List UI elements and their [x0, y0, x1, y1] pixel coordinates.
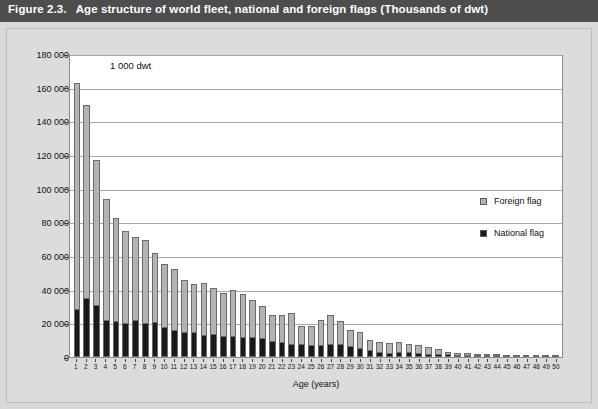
x-axis-tick: 22: [277, 359, 287, 375]
bar-segment-national-flag: [84, 298, 89, 356]
bar-segment-national-flag: [436, 354, 441, 356]
bar-slot: [121, 56, 131, 357]
y-axis-tick-mark: [64, 122, 68, 123]
bar-segment-national-flag: [475, 355, 480, 356]
x-axis-tick-mark: [370, 359, 371, 362]
bar-slot: [551, 56, 561, 357]
bar-segment-national-flag: [377, 352, 382, 356]
stacked-bar: [308, 326, 315, 357]
stacked-bar: [201, 283, 208, 357]
bar-segment-national-flag: [309, 345, 314, 356]
x-axis-tick-label: 17: [228, 363, 238, 370]
stacked-bar: [161, 264, 168, 357]
x-axis-tick-mark: [399, 359, 400, 362]
bar-slot: [365, 56, 375, 357]
bar-segment-foreign-flag: [231, 291, 236, 337]
x-axis-tick-label: 4: [100, 363, 110, 370]
x-axis-tick: 32: [375, 359, 385, 375]
x-axis-tick-mark: [448, 359, 449, 362]
stacked-bar: [425, 347, 432, 357]
bar-segment-foreign-flag: [162, 265, 167, 327]
x-axis-tick-label: 5: [110, 363, 120, 370]
stacked-bar: [406, 344, 413, 357]
bar-segment-foreign-flag: [114, 219, 119, 321]
x-axis-tick-label: 40: [453, 363, 463, 370]
x-axis-tick-label: 35: [404, 363, 414, 370]
bar-segment-national-flag: [260, 338, 265, 356]
chart-legend: Foreign flag National flag: [480, 196, 544, 260]
x-axis-tick: 12: [179, 359, 189, 375]
bar-slot: [228, 56, 238, 357]
stacked-bar: [445, 352, 452, 357]
x-axis-tick-mark: [213, 359, 214, 362]
bar-segment-foreign-flag: [319, 321, 324, 345]
stacked-bar: [474, 354, 481, 357]
bar-slot: [443, 56, 453, 357]
x-axis-tick: 44: [492, 359, 502, 375]
x-axis-tick-mark: [438, 359, 439, 362]
x-axis-tick-mark: [527, 359, 528, 362]
x-axis-tick-label: 9: [149, 363, 159, 370]
x-axis-tick-mark: [340, 359, 341, 362]
x-axis-tick: 5: [110, 359, 120, 375]
x-axis-tick-mark: [135, 359, 136, 362]
stacked-bar: [240, 294, 247, 357]
bar-slot: [433, 56, 443, 357]
bar-segment-national-flag: [299, 344, 304, 356]
stacked-bar: [367, 340, 374, 357]
x-axis-tick-label: 46: [512, 363, 522, 370]
x-axis-tick-mark: [301, 359, 302, 362]
bar-segment-foreign-flag: [75, 84, 80, 310]
bar-slot: [179, 56, 189, 357]
stacked-bar: [181, 280, 188, 357]
bar-segment-foreign-flag: [133, 238, 138, 321]
stacked-bar: [230, 290, 237, 357]
bar-segment-national-flag: [407, 352, 412, 356]
x-axis-tick: 3: [91, 359, 101, 375]
x-axis-tick: 43: [482, 359, 492, 375]
x-axis-tick-mark: [429, 359, 430, 362]
bar-segment-national-flag: [289, 344, 294, 356]
x-axis-tick: 8: [140, 359, 150, 375]
figure-panel: 020 00040 00060 00080 000100 000120 0001…: [6, 28, 592, 403]
stacked-bar: [113, 218, 120, 357]
x-axis-tick: 49: [541, 359, 551, 375]
x-axis-tick: 17: [228, 359, 238, 375]
x-axis-tick-label: 21: [267, 363, 277, 370]
bar-segment-national-flag: [397, 352, 402, 356]
y-axis-tick-mark: [64, 324, 68, 325]
x-axis-tick-mark: [507, 359, 508, 362]
bar-segment-foreign-flag: [182, 281, 187, 331]
bar-slot: [101, 56, 111, 357]
x-axis-tick: 34: [394, 359, 404, 375]
x-axis-tick-mark: [174, 359, 175, 362]
y-axis-tick-label: 100 000: [13, 185, 69, 195]
x-axis-tick: 16: [218, 359, 228, 375]
bar-segment-national-flag: [202, 335, 207, 356]
stacked-bar: [142, 240, 149, 357]
bar-slot: [248, 56, 258, 357]
x-axis-tick-mark: [223, 359, 224, 362]
bar-segment-foreign-flag: [387, 344, 392, 352]
stacked-bar: [484, 354, 491, 357]
stacked-bar: [552, 355, 559, 357]
x-axis-tick-mark: [556, 359, 557, 362]
x-axis-tick: 31: [365, 359, 375, 375]
x-axis-tick-label: 36: [414, 363, 424, 370]
x-axis-tick: 37: [424, 359, 434, 375]
bar-segment-national-flag: [280, 342, 285, 356]
x-axis-tick-mark: [331, 359, 332, 362]
bar-segment-national-flag: [75, 309, 80, 356]
stacked-bar: [327, 315, 334, 357]
bar-segment-foreign-flag: [241, 295, 246, 338]
x-axis-tick: 40: [453, 359, 463, 375]
x-axis: 1234567891011121314151617181920212223242…: [69, 359, 563, 375]
stacked-bar: [74, 83, 81, 357]
bar-slot: [209, 56, 219, 357]
bar-segment-foreign-flag: [104, 200, 109, 320]
x-axis-tick-label: 14: [198, 363, 208, 370]
x-axis-tick-label: 22: [277, 363, 287, 370]
x-axis-tick-mark: [380, 359, 381, 362]
x-axis-tick: 42: [473, 359, 483, 375]
x-axis-tick: 36: [414, 359, 424, 375]
